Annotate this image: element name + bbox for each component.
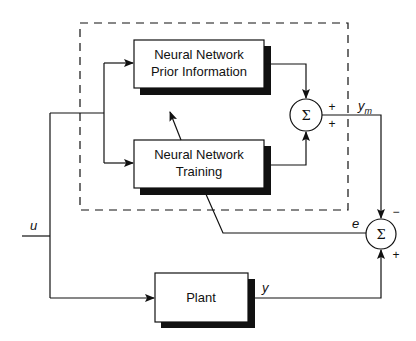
training-block-label-line2: Training: [176, 164, 222, 179]
sigma-symbol: Σ: [376, 227, 385, 242]
signal-label-y: y: [261, 280, 270, 295]
y-output-line: [255, 250, 381, 298]
training-update-arrow: [170, 112, 181, 140]
training-block[interactable]: Neural Network Training: [134, 140, 271, 195]
sigma-symbol: Σ: [301, 108, 310, 123]
signal-label-u: u: [30, 218, 37, 233]
prior-block-label-line1: Neural Network: [154, 47, 244, 62]
minus-sign: −: [392, 205, 399, 219]
plant-block-label: Plant: [186, 290, 216, 305]
signal-label-e: e: [352, 216, 359, 231]
plus-sign-top: +: [328, 100, 335, 114]
plus-sign: +: [392, 248, 399, 262]
ym-subscript: m: [365, 106, 373, 116]
prior-information-block[interactable]: Neural Network Prior Information: [134, 40, 271, 95]
error-feedback-line: [205, 192, 366, 233]
training-block-label-line1: Neural Network: [154, 147, 244, 162]
prior-block-label-line2: Prior Information: [151, 64, 247, 79]
plus-sign-bottom: +: [328, 117, 335, 131]
signal-label-ym: ym: [357, 98, 373, 116]
plant-block[interactable]: Plant: [155, 273, 255, 328]
neural-network-control-diagram: Neural Network Prior Information Neural …: [0, 0, 416, 341]
lower-summing-junction: Σ − +: [366, 205, 400, 262]
training-to-sum-arrow: [271, 132, 306, 165]
